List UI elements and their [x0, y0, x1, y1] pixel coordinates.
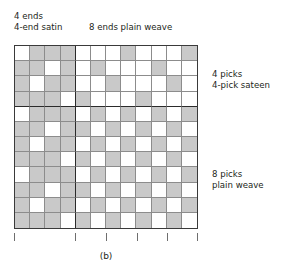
weave-cell — [136, 122, 151, 137]
weave-cell — [76, 122, 91, 137]
weave-cell — [106, 213, 121, 228]
weave-cell — [167, 76, 182, 91]
label-picks-plain-weave: 8 picks plain weave — [212, 169, 264, 192]
weave-cell — [106, 122, 121, 137]
weave-cell — [61, 198, 76, 213]
weave-cell — [167, 167, 182, 182]
weave-cell — [30, 213, 45, 228]
weave-cell — [91, 183, 106, 198]
weave-cell — [167, 92, 182, 107]
weave-cell — [106, 198, 121, 213]
weave-cell — [182, 183, 197, 198]
weave-cell — [15, 107, 30, 122]
weave-cell — [30, 183, 45, 198]
weave-cell — [45, 107, 60, 122]
weave-cell — [106, 137, 121, 152]
weave-diagram: 4 ends 4-end satin 8 ends plain weave 4 … — [0, 0, 288, 277]
label-ends-plain-weave: 8 ends plain weave — [89, 22, 172, 33]
weave-cell — [167, 46, 182, 61]
weave-cell — [136, 167, 151, 182]
weave-cell — [91, 198, 106, 213]
weave-cell — [30, 61, 45, 76]
label-picks-sateen: 4 picks 4-pick sateen — [212, 69, 270, 92]
weave-cell — [152, 122, 167, 137]
weave-cell — [152, 167, 167, 182]
weave-cell — [106, 167, 121, 182]
weave-cell — [182, 198, 197, 213]
weave-cell — [106, 107, 121, 122]
weave-cell — [121, 152, 136, 167]
weave-cell — [45, 46, 60, 61]
weave-cell — [91, 152, 106, 167]
weave-cell — [152, 152, 167, 167]
weave-cell — [152, 198, 167, 213]
weave-cell — [45, 167, 60, 182]
weave-cell — [30, 46, 45, 61]
weave-cell — [91, 92, 106, 107]
weave-cell — [15, 137, 30, 152]
weave-cell — [121, 167, 136, 182]
weave-cell — [152, 92, 167, 107]
weave-cell — [182, 61, 197, 76]
weave-cell — [61, 137, 76, 152]
weave-cell — [182, 76, 197, 91]
weave-cell — [61, 46, 76, 61]
weave-cell — [61, 152, 76, 167]
weave-cell — [45, 76, 60, 91]
weave-cell — [61, 167, 76, 182]
end-tick-marks — [14, 233, 198, 242]
weave-cell — [45, 198, 60, 213]
weave-cell — [15, 167, 30, 182]
weave-cell — [45, 183, 60, 198]
weave-cell — [91, 76, 106, 91]
weave-cell — [61, 183, 76, 198]
weave-cell — [15, 122, 30, 137]
weave-cell — [30, 167, 45, 182]
weave-cell — [91, 213, 106, 228]
weave-cell — [30, 76, 45, 91]
weave-cell — [121, 122, 136, 137]
weave-cell — [136, 61, 151, 76]
weave-cell — [167, 213, 182, 228]
weave-cell — [136, 46, 151, 61]
weave-cell — [15, 61, 30, 76]
weave-cell — [76, 213, 91, 228]
weave-cell — [76, 198, 91, 213]
tick-mark — [14, 233, 15, 241]
weave-cell — [167, 122, 182, 137]
weave-cell — [30, 198, 45, 213]
weave-cell — [152, 183, 167, 198]
weave-cell — [91, 122, 106, 137]
weave-cell — [167, 137, 182, 152]
tick-mark — [137, 233, 138, 241]
weave-cell — [136, 183, 151, 198]
tick-mark — [197, 233, 198, 241]
weave-cell — [182, 152, 197, 167]
weave-cell — [91, 137, 106, 152]
weave-cell — [106, 152, 121, 167]
weave-cell — [76, 183, 91, 198]
weave-cell — [15, 183, 30, 198]
weave-cell — [182, 46, 197, 61]
weave-cell — [106, 183, 121, 198]
weave-cell — [121, 213, 136, 228]
weave-cell — [167, 107, 182, 122]
weave-cell — [121, 61, 136, 76]
weave-cell — [121, 107, 136, 122]
weave-cell — [106, 76, 121, 91]
weave-cell — [45, 122, 60, 137]
weave-cell — [182, 107, 197, 122]
weave-cell — [167, 198, 182, 213]
weave-cell — [152, 76, 167, 91]
weave-cell — [76, 107, 91, 122]
weave-cell — [30, 122, 45, 137]
weave-cell — [182, 137, 197, 152]
weave-cell — [167, 152, 182, 167]
weave-cell — [152, 213, 167, 228]
weave-cell — [76, 46, 91, 61]
weave-cell — [76, 152, 91, 167]
weave-cell — [182, 213, 197, 228]
weave-cell — [61, 61, 76, 76]
weave-cell — [106, 92, 121, 107]
tick-mark — [167, 233, 168, 241]
